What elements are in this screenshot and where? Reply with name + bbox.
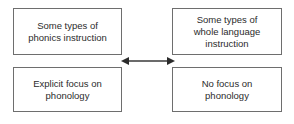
diagram-box-phonics-instruction: Some types of phonics instruction <box>13 8 122 55</box>
diagram-canvas: Some types of phonics instruction Some t… <box>0 0 294 124</box>
diagram-box-label: Some types of phonics instruction <box>24 20 111 44</box>
diagram-box-label: Some types of whole language instruction <box>190 14 265 50</box>
diagram-box-whole-language-instruction: Some types of whole language instruction <box>172 8 282 55</box>
diagram-box-label: Explicit focus on phonology <box>29 78 106 102</box>
double-headed-arrow-icon <box>120 53 176 69</box>
diagram-box-label: No focus on phonology <box>198 78 257 102</box>
diagram-box-no-phonology: No focus on phonology <box>172 67 282 112</box>
diagram-box-explicit-phonology: Explicit focus on phonology <box>13 67 122 112</box>
